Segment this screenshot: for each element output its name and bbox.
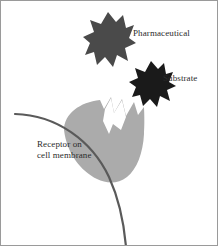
receptor-label-line2: cell membrane [37, 150, 92, 160]
pharmaceutical-label: Pharmaceutical [133, 28, 190, 39]
substrate-molecule-shape [129, 61, 176, 107]
substrate-label: Substrate [163, 73, 197, 84]
pharmaceutical-molecule-shape [83, 12, 136, 67]
receptor-diagram-figure: Pharmaceutical Substrate Receptor oncell… [0, 0, 218, 246]
receptor-label-line1: Receptor on [37, 139, 82, 149]
receptor-label: Receptor oncell membrane [37, 139, 92, 160]
